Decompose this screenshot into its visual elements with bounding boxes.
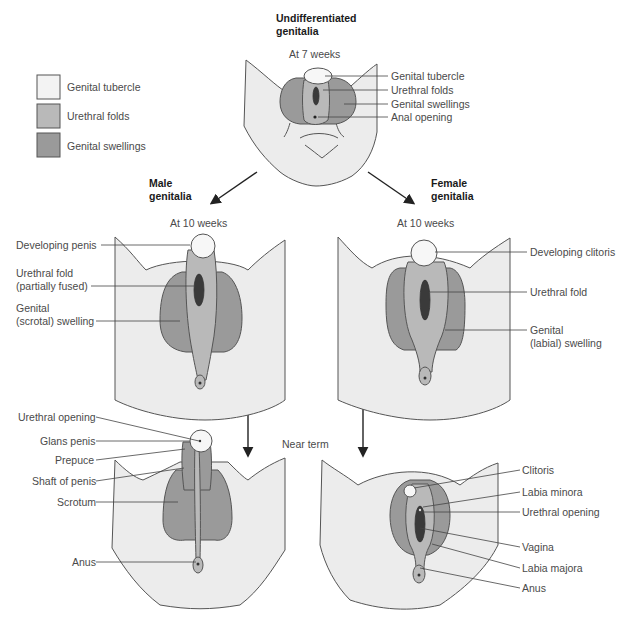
female-10wk-stage: At 10 weeks: [397, 217, 454, 229]
label-anus-female: Anus: [522, 582, 546, 594]
label-genital-swelling-female: Genital: [530, 324, 563, 336]
leader-prepuce: [96, 449, 185, 460]
legend-swatch-genital-tubercle: [37, 75, 60, 99]
near-term-label: Near term: [282, 438, 329, 450]
undifferentiated-panel: Undifferentiated genitalia At 7 weeks Ge…: [244, 12, 470, 186]
leader-urethral-opening-male: [96, 417, 199, 441]
undifferentiated-title: Undifferentiated: [276, 12, 357, 24]
legend: Genital tubercle Urethral folds Genital …: [37, 75, 146, 157]
label-urethral-opening-female: Urethral opening: [522, 506, 600, 518]
label-genital-tubercle: Genital tubercle: [391, 70, 465, 82]
label-urethral-fold-female: Urethral fold: [530, 286, 587, 298]
undiff-anal-opening: [313, 115, 316, 118]
legend-label-genital-swellings: Genital swellings: [67, 140, 146, 152]
label-urethral-fold-male: Urethral fold: [16, 267, 73, 279]
label-glans-penis: Glans penis: [40, 435, 95, 447]
label-prepuce: Prepuce: [55, 454, 94, 466]
label-vagina: Vagina: [522, 541, 554, 553]
female-term-clitoris: [404, 485, 416, 497]
female-10wk-urethral-groove: [420, 280, 430, 320]
label-genital-swelling-male-2: (scrotal) swelling: [16, 315, 94, 327]
label-urethral-opening-male: Urethral opening: [18, 411, 96, 423]
female-title: Female: [431, 177, 467, 189]
legend-swatch-genital-swellings: [37, 133, 60, 157]
male-near-term-panel: Urethral opening Glans penis Prepuce Sha…: [18, 411, 285, 609]
legend-label-urethral-folds: Urethral folds: [67, 110, 129, 122]
male-10-weeks-panel: At 10 weeks Developing penis Urethral fo…: [16, 217, 285, 420]
label-shaft-of-penis: Shaft of penis: [32, 475, 96, 487]
female-10-weeks-panel: At 10 weeks Developing clitoris Urethral…: [338, 217, 615, 420]
male-term-raphe: [195, 446, 201, 560]
label-clitoris: Clitoris: [522, 464, 554, 476]
undifferentiated-title-2: genitalia: [276, 25, 319, 37]
female-term-urethral-opening: [419, 509, 421, 511]
female-10wk-anus: [424, 377, 427, 380]
label-labia-minora: Labia minora: [522, 486, 583, 498]
label-anal-opening: Anal opening: [391, 111, 452, 123]
female-10wk-anal-area: [419, 367, 431, 385]
legend-swatch-urethral-folds: [37, 104, 60, 128]
label-scrotum: Scrotum: [57, 496, 96, 508]
arrow-to-male: [212, 172, 257, 203]
label-genital-swellings: Genital swellings: [391, 98, 470, 110]
female-title-2: genitalia: [431, 190, 474, 202]
label-developing-clitoris: Developing clitoris: [530, 246, 615, 258]
label-anus-male: Anus: [72, 556, 96, 568]
legend-label-genital-tubercle: Genital tubercle: [67, 81, 141, 93]
label-urethral-folds: Urethral folds: [391, 84, 453, 96]
label-urethral-fold-male-2: (partially fused): [16, 280, 88, 292]
undifferentiated-stage: At 7 weeks: [289, 48, 340, 60]
genitalia-development-diagram: Genital tubercle Urethral folds Genital …: [0, 0, 630, 618]
arrow-to-female: [368, 172, 413, 203]
undiff-urogenital-slit: [313, 87, 319, 105]
male-title-2: genitalia: [149, 190, 192, 202]
label-genital-swelling-female-2: (labial) swelling: [530, 337, 602, 349]
label-developing-penis: Developing penis: [16, 239, 97, 251]
male-title: Male: [149, 177, 173, 189]
male-10wk-stage: At 10 weeks: [170, 217, 227, 229]
label-genital-swelling-male: Genital: [16, 302, 49, 314]
female-term-vagina: [415, 506, 425, 542]
male-10wk-urethral-groove: [194, 274, 204, 306]
label-labia-majora: Labia majora: [522, 562, 583, 574]
female-10wk-developing-clitoris: [411, 240, 437, 266]
male-term-anus: [197, 563, 200, 566]
male-10wk-developing-penis: [191, 234, 215, 258]
male-term-urethral-opening: [199, 440, 201, 442]
male-10wk-anus: [199, 382, 202, 385]
female-near-term-panel: Clitoris Labia minora Urethral opening V…: [320, 460, 600, 609]
female-term-anus: [418, 574, 421, 577]
